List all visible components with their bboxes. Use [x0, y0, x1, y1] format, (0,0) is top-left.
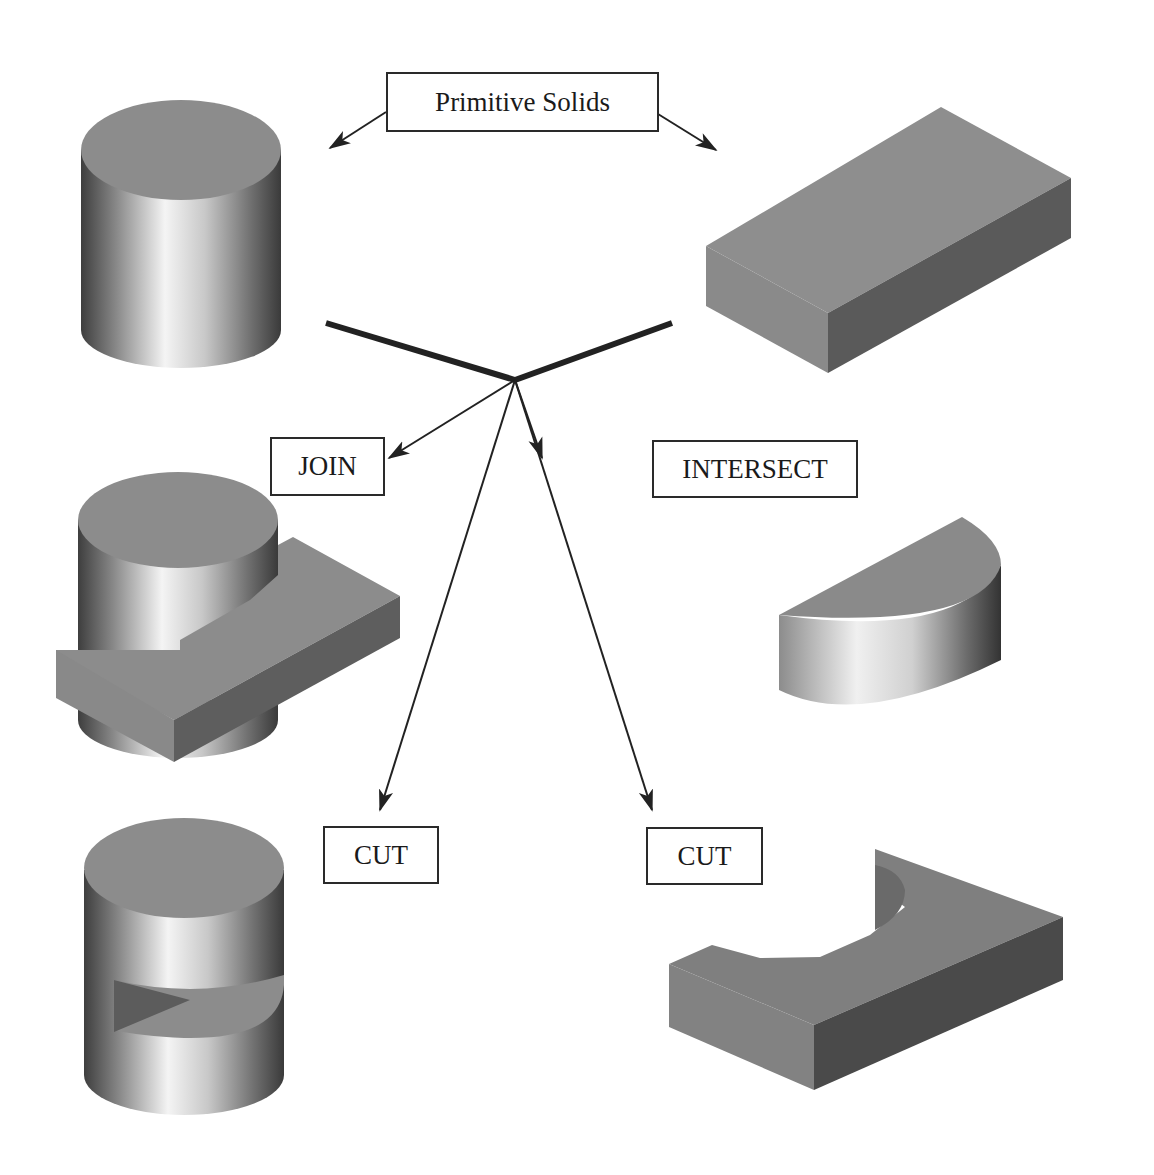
arrow-to-box	[658, 114, 716, 150]
cut-left-text: CUT	[354, 840, 408, 871]
cut-result-cylinder	[84, 818, 284, 1115]
intersect-result-solid	[779, 517, 1001, 705]
cut-result-block	[669, 849, 1063, 1090]
boolean-operations-diagram	[0, 0, 1154, 1175]
primitive-solids-label: Primitive Solids	[386, 72, 659, 132]
join-result-solid	[56, 472, 400, 762]
cut-right-text: CUT	[678, 841, 732, 872]
primitive-solids-text: Primitive Solids	[435, 87, 610, 118]
box-primitive	[706, 107, 1071, 373]
cut-label-left: CUT	[323, 826, 439, 884]
operation-arrows	[380, 380, 652, 810]
intersect-label: INTERSECT	[652, 440, 858, 498]
cut-label-right: CUT	[646, 827, 763, 885]
arrow-to-cylinder	[330, 112, 386, 148]
combine-lines	[326, 323, 672, 380]
join-text: JOIN	[298, 451, 357, 482]
join-label: JOIN	[270, 437, 385, 496]
intersect-text: INTERSECT	[682, 454, 828, 485]
cylinder-primitive	[81, 100, 281, 368]
